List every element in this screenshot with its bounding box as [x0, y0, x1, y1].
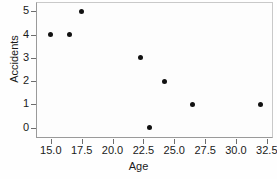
- y-axis-tick-label: 4: [0, 28, 29, 40]
- y-axis-tick-label: 3: [0, 51, 29, 63]
- data-point: [79, 9, 84, 14]
- y-axis-tick: [31, 128, 36, 129]
- y-axis-tick-label: 2: [0, 74, 29, 86]
- y-axis-tick: [31, 81, 36, 82]
- data-point: [67, 32, 72, 37]
- y-axis-tick: [31, 11, 36, 12]
- x-axis-title: Age: [0, 160, 277, 172]
- y-axis-tick-label: 0: [0, 121, 29, 133]
- y-axis-tick-label: 1: [0, 97, 29, 109]
- data-point: [258, 102, 263, 107]
- plot-area: [36, 2, 273, 138]
- y-axis-tick: [31, 35, 36, 36]
- y-axis-tick: [31, 104, 36, 105]
- data-point: [162, 79, 167, 84]
- scatter-plot-figure: Accidents 012345 15.017.520.022.525.027.…: [0, 0, 277, 179]
- y-axis-tick: [31, 58, 36, 59]
- y-axis-tick-label: 5: [0, 4, 29, 16]
- x-axis-tick-label: 32.5: [247, 144, 277, 156]
